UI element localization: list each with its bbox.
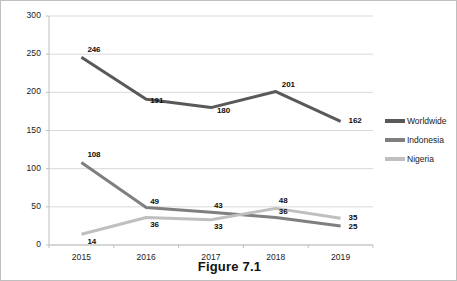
data-label-nigeria-2018: 48 bbox=[279, 196, 288, 205]
y-tick-label: 150 bbox=[7, 125, 41, 135]
data-label-nigeria-2016: 36 bbox=[150, 220, 159, 229]
data-label-nigeria-2019: 35 bbox=[349, 213, 358, 222]
y-tick-label: 250 bbox=[7, 48, 41, 58]
data-label-worldwide-2017: 180 bbox=[217, 106, 230, 115]
y-tick-label: 0 bbox=[7, 239, 41, 249]
figure-caption: Figure 7.1 bbox=[1, 259, 457, 274]
legend-label: Nigeria bbox=[407, 154, 434, 164]
data-label-nigeria-2015: 14 bbox=[87, 237, 96, 246]
chart-legend: WorldwideIndonesiaNigeria bbox=[385, 111, 457, 168]
data-label-indonesia-2018: 36 bbox=[279, 207, 288, 216]
legend-item-worldwide[interactable]: Worldwide bbox=[385, 111, 457, 130]
data-label-indonesia-2019: 25 bbox=[349, 222, 358, 231]
legend-item-nigeria[interactable]: Nigeria bbox=[385, 149, 457, 168]
data-label-worldwide-2018: 201 bbox=[282, 80, 295, 89]
legend-swatch-icon bbox=[385, 119, 405, 123]
y-tick-label: 200 bbox=[7, 86, 41, 96]
series-line-indonesia bbox=[81, 163, 340, 226]
data-label-indonesia-2015: 108 bbox=[87, 150, 100, 159]
y-tick-label: 50 bbox=[7, 201, 41, 211]
legend-swatch-icon bbox=[385, 157, 405, 161]
y-tick-label: 100 bbox=[7, 163, 41, 173]
series-line-worldwide bbox=[81, 57, 340, 121]
data-label-indonesia-2017: 43 bbox=[214, 201, 223, 210]
data-label-nigeria-2017: 33 bbox=[214, 222, 223, 231]
data-label-worldwide-2016: 191 bbox=[150, 96, 163, 105]
legend-label: Worldwide bbox=[407, 116, 447, 126]
legend-item-indonesia[interactable]: Indonesia bbox=[385, 130, 457, 149]
data-label-indonesia-2016: 49 bbox=[150, 197, 159, 206]
legend-label: Indonesia bbox=[407, 135, 444, 145]
legend-swatch-icon bbox=[385, 138, 405, 142]
data-label-worldwide-2015: 246 bbox=[87, 45, 100, 54]
series-lines-group bbox=[81, 57, 340, 234]
data-label-worldwide-2019: 162 bbox=[349, 116, 362, 125]
y-tick-label: 300 bbox=[7, 10, 41, 20]
figure-container: 050100150200250300 20152016201720182019 … bbox=[0, 0, 457, 281]
